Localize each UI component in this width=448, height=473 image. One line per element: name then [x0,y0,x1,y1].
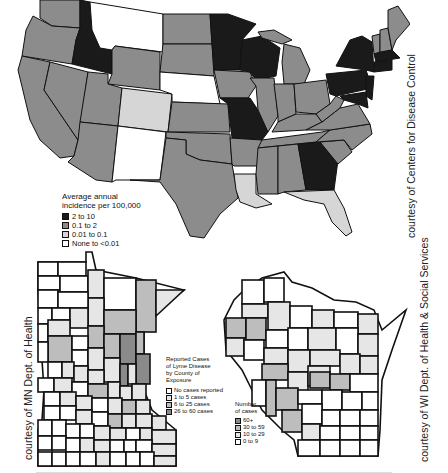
us-legend-label: None to <0.01 [72,239,119,248]
state-nd [163,14,212,44]
us-legend-item: 2 to 10 [62,212,141,221]
cdc-credit: courtesy of Centers for Disease Control [405,54,417,238]
mn-legend-item: 1 to 5 cases [166,394,223,401]
wi-map-legend: Number of cases 60+ 30 to 59 10 to 29 0 … [235,401,265,445]
state-nm [112,126,166,182]
us-legend-label: 0.1 to 2 [72,221,97,230]
us-legend-title-line2: incidence per 100,000 [62,201,141,210]
mn-legend-title-line: Exposure [166,377,223,384]
mn-legend-label: 1 to 5 cases [174,394,206,401]
swatch-2-to-10 [62,213,69,220]
wi-legend-item: 30 to 59 [235,424,265,431]
state-nj [366,76,374,100]
us-legend-title-line1: Average annual [62,192,141,201]
us-legend-title: Average annual incidence per 100,000 [62,192,141,210]
wi-legend-label: 0 to 9 [243,438,258,445]
swatch-no-cases [166,388,172,394]
mn-legend-label: 26 to 60 cases [174,408,213,415]
us-legend-item: 0.1 to 2 [62,221,141,230]
state-ms [256,146,278,194]
state-mi [282,44,310,84]
wi-legend-title-line: Number [235,401,265,408]
swatch-10-to-29 [235,432,241,438]
mn-county-map [36,250,186,470]
mn-map-legend: Reported Cases of Lyme Disease by County… [166,356,223,415]
swatch-1-to-5 [166,395,172,401]
state-ks [168,102,230,132]
state-mt [90,2,163,52]
mn-legend-item: No cases reported [166,387,223,394]
swatch-0.1-to-2 [62,222,69,229]
swatch-6-to-25 [166,402,172,408]
mn-legend-item: 6 to 25 cases [166,401,223,408]
us-legend-label: 2 to 10 [72,212,95,221]
state-sd [160,44,214,76]
swatch-0-to-9 [235,439,241,445]
mn-legend-title-line: Reported Cases [166,356,223,363]
us-map-legend: Average annual incidence per 100,000 2 t… [62,192,141,248]
us-legend-item: 0.01 to 0.1 [62,230,141,239]
swatch-0.01-to-0.1 [62,231,69,238]
mn-legend-item: 26 to 60 cases [166,408,223,415]
wi-legend-label: 10 to 29 [243,431,265,438]
swatch-60-plus [235,418,241,424]
state-ny [336,36,374,72]
state-co [118,88,172,132]
swatch-none [62,240,69,247]
state-wy [108,46,160,90]
us-legend-label: 0.01 to 0.1 [72,230,107,239]
wi-legend-title: Number of cases [235,401,265,415]
state-ia [214,70,256,98]
wi-legend-item: 10 to 29 [235,431,265,438]
swatch-26-to-60 [166,409,172,415]
mn-legend-label: No cases reported [174,387,223,394]
wi-legend-item: 60+ [235,417,265,424]
us-legend-item: None to <0.01 [62,239,141,248]
wi-health-credit: courtesy of WI Dept. of Health & Social … [418,237,430,462]
mn-legend-title: Reported Cases of Lyme Disease by County… [166,356,223,384]
wi-legend-label: 30 to 59 [243,424,265,431]
state-me [388,6,410,50]
wi-legend-item: 0 to 9 [235,438,265,445]
state-ct [374,60,392,72]
mn-health-credit: courtesy of MN Dept. of Health [22,316,34,460]
state-vt [372,34,380,54]
state-fl [284,190,352,236]
mn-legend-title-line: of Lyme Disease [166,363,223,370]
swatch-30-to-59 [235,425,241,431]
wi-legend-title-line: of cases [235,408,265,415]
mn-legend-label: 6 to 25 cases [174,401,210,408]
wi-legend-label: 60+ [243,417,253,424]
mn-legend-title-line: by County of [166,370,223,377]
